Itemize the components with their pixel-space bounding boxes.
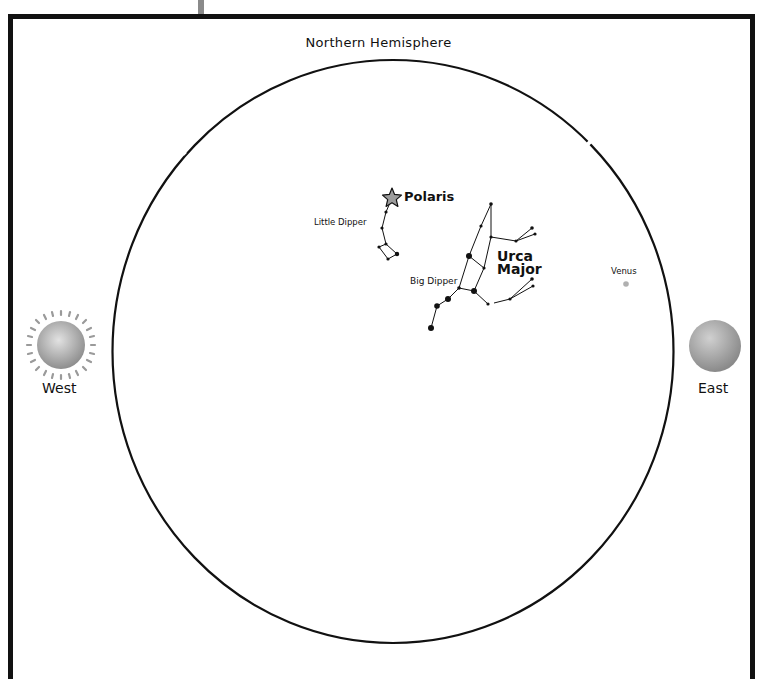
- little-dipper-label: Little Dipper: [314, 217, 366, 227]
- chart-title: Northern Hemisphere: [0, 35, 757, 50]
- sun-icon: [27, 311, 95, 379]
- venus-label: Venus: [611, 266, 637, 276]
- big-dipper-label: Big Dipper: [410, 276, 457, 286]
- venus-dot: [623, 281, 629, 287]
- polaris-star-icon: [383, 188, 402, 206]
- sky-dome-circle: [113, 60, 674, 643]
- west-label: West: [42, 380, 76, 396]
- polaris-label: Polaris: [404, 189, 454, 204]
- east-label: East: [698, 380, 728, 396]
- ursa-major-label: Urca Major: [497, 250, 542, 276]
- ursa-major-label-line2: Major: [497, 263, 542, 276]
- moon-icon: [689, 320, 741, 372]
- little-dipper-stars: [377, 210, 399, 260]
